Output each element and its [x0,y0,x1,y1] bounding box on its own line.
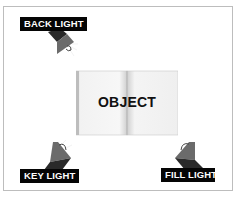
back-light-lamp [40,28,80,58]
key-light-lamp [38,140,76,172]
key-light-label: KEY LIGHT [20,169,79,183]
object-label: OBJECT [76,94,178,110]
object-book: OBJECT [76,69,178,137]
spotlight-icon [38,140,76,172]
back-light-label: BACK LIGHT [20,17,87,31]
fill-light-label: FILL LIGHT [161,168,215,182]
spotlight-icon [40,28,80,58]
